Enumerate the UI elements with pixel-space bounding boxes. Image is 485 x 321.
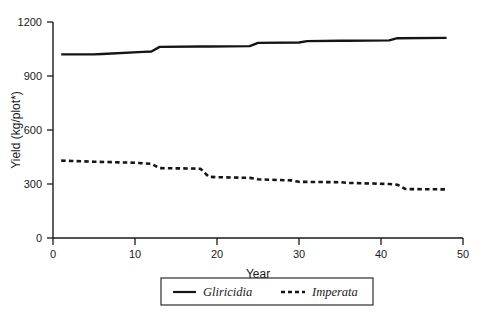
x-tick-label-50: 50 (457, 248, 469, 260)
x-tick-label-10: 10 (129, 248, 141, 260)
x-axis-ticks: 0 10 20 30 40 50 (50, 238, 469, 260)
y-tick-label-600: 600 (24, 124, 42, 136)
y-tick-label-900: 900 (24, 70, 42, 82)
y-tick-label-0: 0 (36, 232, 42, 244)
y-tick-label-1200: 1200 (18, 16, 42, 28)
chart-legend: Gliricidia Imperata (161, 278, 373, 305)
series-line-gliricidia (61, 38, 446, 55)
chart-container: 1200 900 600 300 0 0 10 20 30 40 50 (0, 0, 485, 321)
y-axis-title: Yield (kg/plot*) (9, 91, 23, 169)
legend-label-gliricidia: Gliricidia (203, 285, 252, 299)
series-line-imperata (61, 161, 446, 190)
x-tick-label-40: 40 (375, 248, 387, 260)
x-tick-label-30: 30 (293, 248, 305, 260)
x-tick-label-0: 0 (50, 248, 56, 260)
line-chart: 1200 900 600 300 0 0 10 20 30 40 50 (0, 0, 485, 321)
y-tick-label-300: 300 (24, 178, 42, 190)
x-tick-label-20: 20 (211, 248, 223, 260)
legend-label-imperata: Imperata (311, 285, 358, 299)
